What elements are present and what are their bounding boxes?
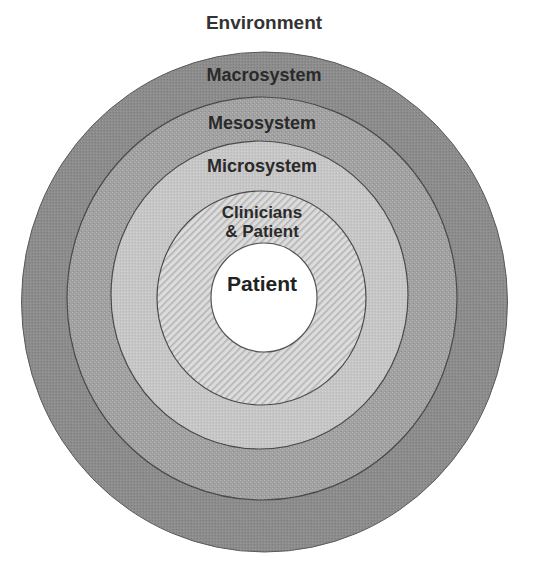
- clinicians-label-line1: Clinicians: [222, 203, 302, 222]
- environment-label: Environment: [206, 13, 322, 34]
- clinicians-label-line2: & Patient: [222, 222, 302, 241]
- macrosystem-label: Macrosystem: [206, 66, 321, 86]
- mesosystem-label: Mesosystem: [208, 114, 316, 134]
- patient-core: [211, 243, 317, 352]
- microsystem-label: Microsystem: [207, 157, 317, 177]
- clinicians-patient-label: Clinicians & Patient: [222, 203, 302, 241]
- patient-label: Patient: [227, 272, 297, 295]
